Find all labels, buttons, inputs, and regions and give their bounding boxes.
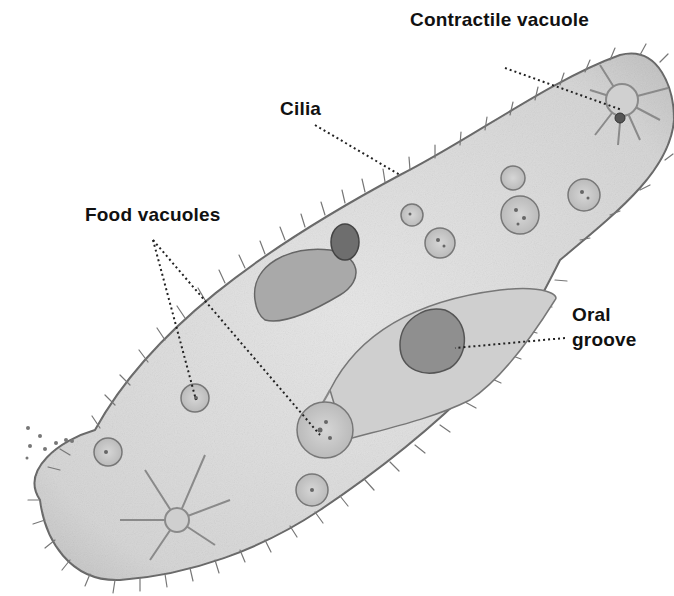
paramecium-diagram: Contractile vacuole Cilia Food vacuoles … (0, 0, 674, 596)
paramecium-illustration (0, 0, 674, 596)
label-food-vacuoles: Food vacuoles (85, 203, 221, 226)
label-oral-groove-line1: Oral (572, 303, 611, 326)
leader-cilia (315, 125, 400, 175)
label-oral-groove-line2: groove (572, 328, 637, 351)
label-cilia: Cilia (280, 97, 321, 120)
label-contractile-vacuole: Contractile vacuole (410, 8, 589, 31)
